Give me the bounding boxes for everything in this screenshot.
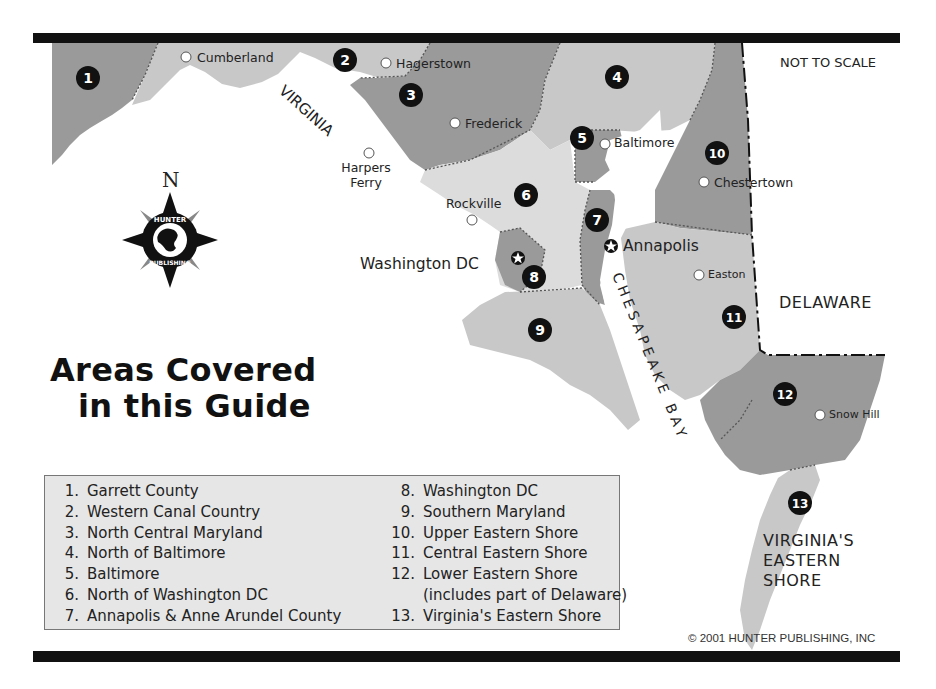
legend-item: 1.Garrett County <box>53 481 341 502</box>
city-marker-frederick <box>450 118 460 128</box>
compass-north-label: N <box>162 168 180 192</box>
region-badge-5: 5 <box>570 126 594 150</box>
city-label-rockville: Rockville <box>446 196 501 211</box>
city-marker-chestertown <box>699 177 709 187</box>
svg-text:PUBLISHING: PUBLISHING <box>149 259 190 266</box>
city-marker-snow-hill <box>815 410 825 420</box>
ves-line-2: EASTERN <box>763 551 854 571</box>
svg-text:13: 13 <box>792 497 809 511</box>
legend-item: 12.Lower Eastern Shore <box>385 564 627 585</box>
region-badge-12: 12 <box>773 382 797 406</box>
svg-text:8: 8 <box>529 269 539 285</box>
city-label-annapolis: Annapolis <box>623 237 699 255</box>
page-title: Areas Covered in this Guide <box>50 352 316 424</box>
city-label-snow-hill: Snow Hill <box>829 408 880 421</box>
region-1-garrett <box>52 43 158 165</box>
region-badge-11: 11 <box>722 305 746 329</box>
svg-text:2: 2 <box>340 52 350 68</box>
legend-box: 1.Garrett County 2.Western Canal Country… <box>44 475 620 630</box>
legend-column-right: 8.Washington DC 9.Southern Maryland 10.U… <box>385 481 627 627</box>
region-badge-4: 4 <box>605 65 629 89</box>
city-label-chestertown: Chestertown <box>714 175 793 190</box>
svg-text:7: 7 <box>592 212 602 228</box>
city-marker-rockville <box>467 215 477 225</box>
city-marker-hagerstown <box>381 58 391 68</box>
region-badge-2: 2 <box>333 48 357 72</box>
city-marker-baltimore <box>600 139 610 149</box>
region-badge-6: 6 <box>514 183 538 207</box>
copyright-notice: © 2001 HUNTER PUBLISHING, INC <box>688 632 875 644</box>
region-badge-1: 1 <box>76 66 100 90</box>
city-label-harpers-ferry: Harpers Ferry <box>340 160 392 190</box>
ves-line-1: VIRGINIA'S <box>763 531 854 551</box>
legend-item: (includes part of Delaware) <box>385 585 627 606</box>
city-label-baltimore: Baltimore <box>614 135 674 150</box>
svg-text:3: 3 <box>406 87 416 103</box>
city-marker-cumberland <box>181 52 191 62</box>
region-badge-9: 9 <box>528 318 552 342</box>
region-badge-10: 10 <box>705 141 729 165</box>
city-label-frederick: Frederick <box>465 116 522 131</box>
svg-text:HUNTER: HUNTER <box>154 216 187 224</box>
title-line-1: Areas Covered <box>50 352 316 388</box>
svg-text:9: 9 <box>535 322 545 338</box>
city-label-washington-dc: Washington DC <box>360 255 479 273</box>
svg-text:12: 12 <box>777 388 794 402</box>
region-badge-13: 13 <box>788 491 812 515</box>
city-marker-easton <box>694 270 704 280</box>
region-badge-3: 3 <box>399 83 423 107</box>
region-badge-8: 8 <box>522 265 546 289</box>
svg-text:4: 4 <box>612 69 622 85</box>
svg-text:11: 11 <box>726 311 743 325</box>
legend-item: 10.Upper Eastern Shore <box>385 523 627 544</box>
not-to-scale-note: NOT TO SCALE <box>780 55 876 70</box>
legend-item: 11.Central Eastern Shore <box>385 543 627 564</box>
legend-item: 2.Western Canal Country <box>53 502 341 523</box>
city-label-hagerstown: Hagerstown <box>396 56 471 71</box>
state-label-delaware: DELAWARE <box>779 293 872 312</box>
svg-text:1: 1 <box>83 70 93 86</box>
legend-item: 13.Virginia's Eastern Shore <box>385 606 627 627</box>
legend-item: 6.North of Washington DC <box>53 585 341 606</box>
city-label-ferry: Ferry <box>340 175 392 190</box>
city-label-easton: Easton <box>708 268 745 281</box>
state-label-virginia-eastern-shore: VIRGINIA'S EASTERN SHORE <box>763 531 854 591</box>
region-badge-7: 7 <box>585 208 609 232</box>
city-label-harpers: Harpers <box>340 160 392 175</box>
legend-item: 7.Annapolis & Anne Arundel County <box>53 606 341 627</box>
ves-line-3: SHORE <box>763 571 854 591</box>
legend-item: 3.North Central Maryland <box>53 523 341 544</box>
state-label-virginia: VIRGINIA <box>275 82 337 141</box>
svg-text:5: 5 <box>577 130 587 146</box>
svg-text:10: 10 <box>709 147 726 161</box>
compass-rose-icon: HUNTER PUBLISHING <box>122 192 218 288</box>
city-marker-harpers-ferry <box>364 148 374 158</box>
legend-item: 4.North of Baltimore <box>53 543 341 564</box>
title-line-2: in this Guide <box>50 388 316 424</box>
legend-item: 8.Washington DC <box>385 481 627 502</box>
svg-text:6: 6 <box>521 187 531 203</box>
legend-item: 9.Southern Maryland <box>385 502 627 523</box>
city-label-cumberland: Cumberland <box>197 50 274 65</box>
legend-column-left: 1.Garrett County 2.Western Canal Country… <box>53 481 341 627</box>
legend-item: 5.Baltimore <box>53 564 341 585</box>
